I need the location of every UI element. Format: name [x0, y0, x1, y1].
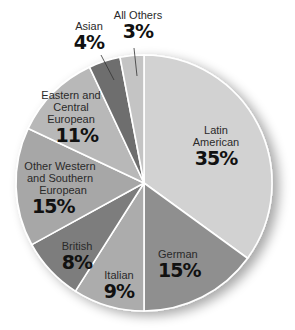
label-italian: Italian 9% [98, 269, 140, 302]
label-latin-american: Latin American 35% [176, 124, 256, 169]
label-name: Eastern and [38, 89, 104, 101]
label-percent: 8% [56, 252, 98, 273]
label-all-others: All Others 3% [110, 9, 166, 42]
label-percent: 15% [158, 260, 218, 281]
label-name: and Southern [18, 172, 102, 184]
label-german: German 15% [158, 248, 218, 281]
label-name: Central [38, 101, 104, 113]
label-percent: 35% [176, 148, 256, 169]
label-name: Latin [176, 124, 256, 136]
label-name: Other Western [18, 160, 102, 172]
label-other-western-southern-european: Other Western and Southern European 15% [18, 160, 102, 217]
label-british: British 8% [56, 240, 98, 273]
label-percent: 4% [70, 32, 108, 53]
label-percent: 9% [98, 281, 140, 302]
label-percent: 3% [110, 21, 166, 42]
label-eastern-central-european: Eastern and Central European 11% [38, 89, 104, 146]
label-percent: 11% [38, 125, 104, 146]
label-percent: 15% [18, 196, 102, 217]
label-asian: Asian 4% [70, 20, 108, 53]
